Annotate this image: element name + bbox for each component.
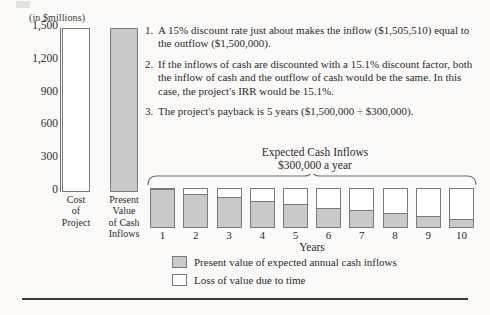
- year-tick-label: 1: [150, 229, 175, 241]
- year-tick-label: 2: [183, 229, 208, 241]
- y-axis-tick: 1,500: [32, 20, 58, 32]
- note-text: The project's payback is 5 years ($1,500…: [158, 105, 483, 118]
- year-bar-present-value-fill: [251, 201, 274, 227]
- category-label-line: Inflows: [101, 228, 147, 239]
- y-axis-tick: 600: [41, 118, 58, 130]
- year-bar: [183, 188, 208, 228]
- year-tick-label: 3: [217, 229, 242, 241]
- year-tick-label: 5: [283, 229, 308, 241]
- inflow-title-line2: $300,000 a year: [170, 159, 460, 172]
- year-bar-present-value-fill: [284, 204, 307, 227]
- year-bar: [316, 188, 341, 228]
- note-number: 2.: [145, 58, 158, 98]
- note-number: 3.: [145, 105, 158, 118]
- note-item: 3.The project's payback is 5 years ($1,5…: [145, 105, 483, 118]
- legend-swatch: [172, 274, 187, 286]
- year-bar: [217, 188, 242, 228]
- explanatory-notes: 1.A 15% discount rate just about makes t…: [145, 24, 483, 125]
- expected-cash-inflows-title: Expected Cash Inflows $300,000 a year: [170, 146, 460, 172]
- year-bar: [416, 188, 441, 228]
- year-tick-label: 4: [250, 229, 275, 241]
- category-label-line: Value: [101, 205, 147, 216]
- year-bar-present-value-fill: [151, 189, 174, 227]
- category-label-line: of: [53, 205, 99, 216]
- category-label-line: Project: [53, 217, 99, 228]
- year-tick-label: 10: [449, 229, 474, 241]
- top-left-mark: [16, 1, 30, 8]
- label-present-value-cash-inflows: PresentValueof CashInflows: [101, 194, 147, 240]
- year-bar: [283, 188, 308, 228]
- year-bar: [150, 188, 175, 228]
- note-text: If the inflows of cash are discounted wi…: [158, 58, 483, 98]
- note-number: 1.: [145, 24, 158, 51]
- legend-item: Present value of expected annual cash in…: [172, 254, 397, 270]
- yearly-cash-inflow-bars: [146, 188, 478, 228]
- category-label-line: Cost: [53, 194, 99, 205]
- year-bar: [383, 188, 408, 228]
- legend-label: Loss of value due to time: [194, 274, 306, 286]
- year-bar-present-value-fill: [450, 219, 473, 227]
- year-tick-label: 8: [383, 229, 408, 241]
- y-axis-tick: 300: [41, 151, 58, 163]
- category-label-line: of Cash: [101, 217, 147, 228]
- bar-present-value-cash-inflows: [110, 28, 138, 192]
- year-bar-present-value-fill: [417, 216, 440, 227]
- year-tick-label: 9: [416, 229, 441, 241]
- year-tick-label: 7: [349, 229, 374, 241]
- category-label-line: Present: [101, 194, 147, 205]
- label-cost-of-project: CostofProject: [53, 194, 99, 228]
- y-axis-line: [60, 28, 61, 192]
- year-bar: [449, 188, 474, 228]
- years-axis-label: Years: [146, 241, 478, 253]
- year-bar: [250, 188, 275, 228]
- y-axis-ticks: 03006009001,2001,500: [14, 26, 58, 192]
- year-bar: [349, 188, 374, 228]
- year-bar-present-value-fill: [184, 194, 207, 227]
- bar-cost-of-project: [62, 28, 90, 192]
- year-bar-present-value-fill: [384, 213, 407, 227]
- y-axis-tick: 1,200: [32, 53, 58, 65]
- chart-legend: Present value of expected annual cash in…: [172, 254, 397, 290]
- year-bar-present-value-fill: [317, 208, 340, 227]
- cost-vs-pv-bars: [62, 28, 152, 192]
- legend-swatch: [172, 256, 187, 268]
- figure-canvas: (in $millions) 03006009001,2001,500 Cost…: [0, 0, 490, 315]
- legend-item: Loss of value due to time: [172, 272, 397, 288]
- note-item: 2.If the inflows of cash are discounted …: [145, 58, 483, 98]
- brace-icon: [146, 174, 478, 186]
- y-axis-tick: 900: [41, 86, 58, 98]
- year-tick-label: 6: [316, 229, 341, 241]
- inflow-title-line1: Expected Cash Inflows: [170, 146, 460, 159]
- year-bar-present-value-fill: [218, 197, 241, 227]
- bottom-rule: [22, 298, 468, 300]
- legend-label: Present value of expected annual cash in…: [194, 256, 397, 268]
- note-item: 1.A 15% discount rate just about makes t…: [145, 24, 483, 51]
- note-text: A 15% discount rate just about makes the…: [158, 24, 483, 51]
- year-bar-present-value-fill: [350, 210, 373, 227]
